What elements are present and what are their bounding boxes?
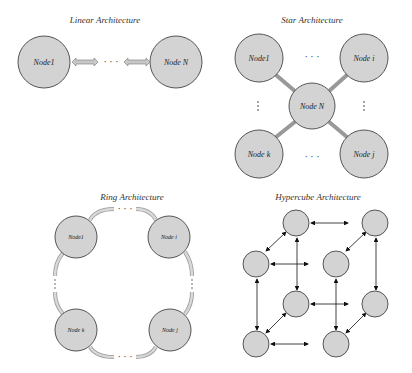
ring-node-j-label: Node j xyxy=(161,327,178,333)
hypercube-architecture-panel: Hypercube Architecture xyxy=(243,192,388,357)
star-node-1-label: Node1 xyxy=(248,54,270,63)
ellipsis: · · · xyxy=(104,56,119,67)
ring-title: Ring Architecture xyxy=(99,192,163,202)
ellipsis: · · · xyxy=(118,203,133,214)
hypercube-node xyxy=(362,291,388,317)
star-node-i-label: Node i xyxy=(352,54,374,63)
linear-node-1-label: Node1 xyxy=(33,58,55,67)
hypercube-node xyxy=(323,331,349,357)
ring-node-i-label: Node i xyxy=(160,234,177,240)
architecture-diagrams: Linear Architecture Node1 Node N · · · S… xyxy=(0,0,412,373)
linear-architecture-panel: Linear Architecture Node1 Node N · · · xyxy=(18,15,202,88)
ellipsis: · · · xyxy=(305,51,320,62)
star-title: Star Architecture xyxy=(281,15,342,25)
ring-node-1-label: Node1 xyxy=(67,234,84,240)
ellipsis: · · · xyxy=(118,351,133,362)
ring-architecture-panel: Ring Architecture Node1 Node i Node k xyxy=(54,192,192,362)
star-architecture-panel: Star Architecture Node1 Node i Node N No… xyxy=(235,15,388,178)
hypercube-node xyxy=(323,251,349,277)
hypercube-node xyxy=(362,210,388,236)
hypercube-node xyxy=(243,331,269,357)
hypercube-title: Hypercube Architecture xyxy=(274,192,361,202)
hypercube-links xyxy=(257,223,376,344)
ellipsis: · · · xyxy=(305,151,320,162)
hypercube-node xyxy=(283,291,309,317)
hypercube-node xyxy=(283,210,309,236)
linear-title: Linear Architecture xyxy=(69,15,140,25)
linear-node-n-label: Node N xyxy=(163,58,189,67)
vertical-ellipsis xyxy=(54,279,192,288)
double-arrow-icon xyxy=(72,58,98,66)
star-node-j-label: Node j xyxy=(352,150,375,159)
star-node-n-label: Node N xyxy=(299,102,325,111)
hypercube-node xyxy=(243,251,269,277)
double-arrow-icon xyxy=(124,58,150,66)
star-node-k-label: Node k xyxy=(247,150,271,159)
ring-node-k-label: Node k xyxy=(67,327,85,333)
